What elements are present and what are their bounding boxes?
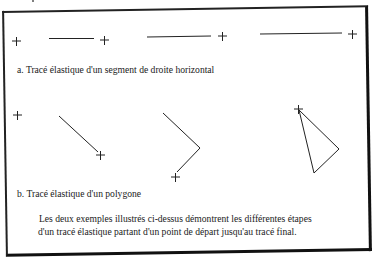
section-b-drawings bbox=[13, 105, 339, 182]
description-line-2: d'un tracé élastique partant d'un point … bbox=[38, 225, 312, 238]
plus-marker-icon bbox=[171, 173, 180, 182]
caption-section-a: a. Tracé élastique d'un segment de droit… bbox=[17, 64, 214, 75]
plus-marker-icon bbox=[96, 151, 105, 160]
caption-section-b: b. Tracé élastique d'un polygone bbox=[17, 188, 141, 199]
polygon-closed-triangle bbox=[299, 110, 339, 173]
description-line-1: Les deux exemples illustrés ci-dessus dé… bbox=[39, 212, 312, 225]
plus-marker-icon bbox=[100, 36, 109, 45]
plus-marker-icon bbox=[12, 37, 21, 46]
rubber-band-line bbox=[260, 33, 342, 34]
section-a-drawings bbox=[12, 30, 357, 46]
rubber-band-line bbox=[147, 36, 211, 37]
rubber-band-line bbox=[59, 116, 98, 152]
plus-marker-icon bbox=[13, 111, 22, 120]
plus-marker-icon bbox=[218, 32, 227, 41]
polygon-open bbox=[163, 113, 200, 172]
description-paragraph: Les deux exemples illustrés ci-dessus dé… bbox=[39, 212, 312, 238]
plus-marker-icon bbox=[348, 30, 357, 39]
